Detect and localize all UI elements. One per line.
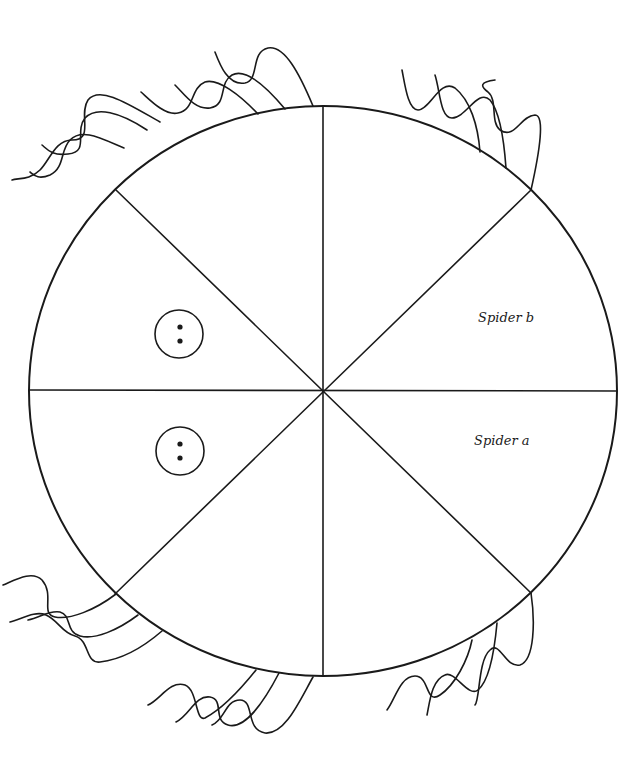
label-spider-b: Spider b xyxy=(478,310,534,325)
sector-dividers xyxy=(29,106,617,676)
diagram-canvas: Spider b Spider a xyxy=(0,0,640,780)
marker-upper xyxy=(155,310,203,358)
marker-lower xyxy=(156,427,204,475)
legs-top-center xyxy=(141,48,313,114)
legs-bottom-right xyxy=(387,593,533,715)
legs-top-right xyxy=(402,70,541,190)
legs-top-left xyxy=(12,95,160,180)
legs-bottom-left xyxy=(3,576,162,662)
label-spider-a: Spider a xyxy=(474,433,530,448)
spider-diagram: Spider b Spider a xyxy=(0,0,640,780)
legs-bottom-center xyxy=(148,670,313,733)
